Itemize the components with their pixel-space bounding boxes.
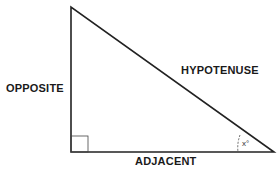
hypotenuse-label: HYPOTENUSE [181, 64, 259, 76]
right-triangle [71, 7, 274, 152]
opposite-label: OPPOSITE [6, 82, 64, 94]
angle-arc [238, 135, 240, 152]
right-angle-marker [71, 136, 88, 152]
adjacent-label: ADJACENT [135, 155, 197, 167]
angle-label: x° [242, 139, 249, 148]
